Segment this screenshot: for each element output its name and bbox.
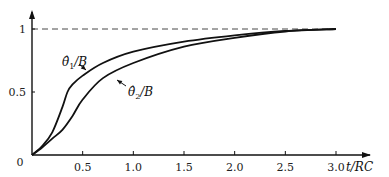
x-tick-label: 2.5 [277,161,295,174]
series-line-1 [32,29,336,155]
y-axis-arrow-icon [29,10,35,19]
x-axis-arrow-icon [362,152,371,158]
labels: θ̂1/Bθ̂2/B [62,55,153,101]
origin-label: 0 [17,156,24,169]
y-tick-label: 1 [19,23,26,36]
x-axis-label: t/RC [346,160,373,174]
chart: 0.51.01.52.02.53.00.510t/RC θ̂1/Bθ̂2/B [0,0,389,177]
axes: 0.51.01.52.02.53.00.510t/RC [9,10,374,174]
series-label-2: θ̂2/B [128,85,153,101]
x-tick-label: 3.0 [327,161,345,174]
x-tick-label: 2.0 [226,161,244,174]
x-tick-label: 1.5 [175,161,193,174]
series-line-2 [32,29,336,155]
x-tick-label: 0.5 [74,161,92,174]
y-tick-label: 0.5 [9,86,27,99]
x-tick-label: 1.0 [125,161,143,174]
series-lines [32,29,336,155]
arrow-icon [117,80,122,85]
